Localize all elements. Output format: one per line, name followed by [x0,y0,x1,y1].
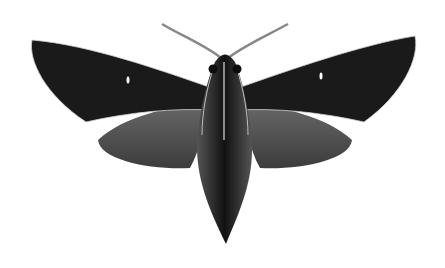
right-wing-spot [320,73,323,80]
moth-figure [0,0,445,268]
left-antenna [162,24,221,58]
right-eye [233,65,242,74]
moth-illustration [0,0,445,268]
right-antenna [228,24,288,58]
left-wing-spot [127,77,130,84]
left-eye [209,65,218,74]
left-forewing [31,40,212,122]
right-forewing [238,36,416,122]
